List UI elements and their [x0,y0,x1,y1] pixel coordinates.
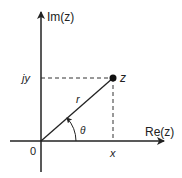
complex-plane-diagram: Im(z) Re(z) 0 z jy x r θ [0,0,182,178]
vector-r [41,78,113,141]
origin-label: 0 [30,145,36,157]
r-label: r [76,93,81,105]
jy-label: jy [20,72,31,84]
x-label: x [109,147,116,159]
point-z-label: z [119,71,126,85]
y-axis-label: Im(z) [47,10,74,24]
point-z [110,75,117,82]
angle-arc-icon [67,118,76,141]
x-axis-label: Re(z) [145,125,174,139]
theta-label: θ [80,125,86,136]
